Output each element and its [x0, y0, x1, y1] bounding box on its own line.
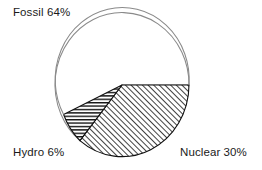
pie-label-nuclear: Nuclear 30%: [180, 146, 247, 159]
pie-chart-svg: [0, 0, 262, 170]
pie-chart: Fossil 64% Hydro 6% Nuclear 30%: [0, 0, 262, 170]
pie-label-hydro: Hydro 6%: [13, 146, 64, 159]
pie-label-fossil: Fossil 64%: [13, 6, 70, 19]
